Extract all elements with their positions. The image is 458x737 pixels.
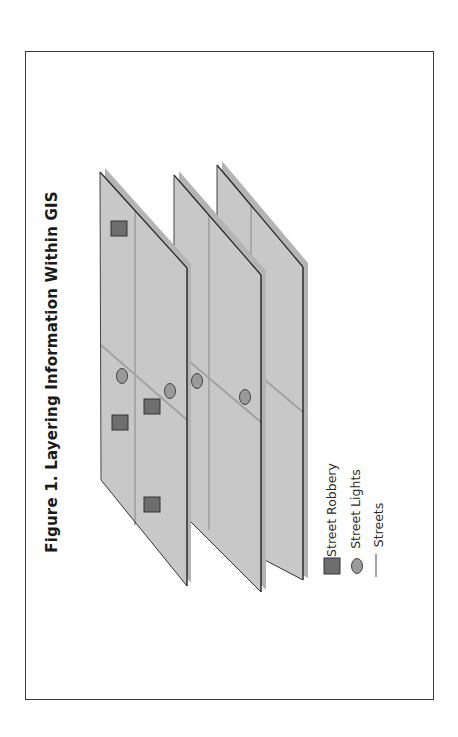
gis-layers-diagram	[0, 0, 458, 737]
legend-symbols	[324, 554, 376, 577]
legend-label-streets: Streets	[371, 503, 386, 548]
legend-label-street-lights: Street Lights	[348, 469, 363, 549]
street-robbery-marker	[112, 415, 128, 430]
street-light-marker	[192, 374, 203, 389]
legend-label-street-robbery: Street Robbery	[324, 463, 339, 557]
street-light-marker	[117, 369, 128, 384]
legend-robbery-square-icon	[324, 558, 340, 574]
street-robbery-marker	[144, 399, 160, 414]
street-light-marker	[240, 390, 251, 405]
street-robbery-marker	[111, 221, 127, 236]
street-light-marker	[165, 384, 176, 399]
street-robbery-marker	[144, 497, 160, 512]
legend-light-ellipse-icon	[352, 559, 363, 574]
